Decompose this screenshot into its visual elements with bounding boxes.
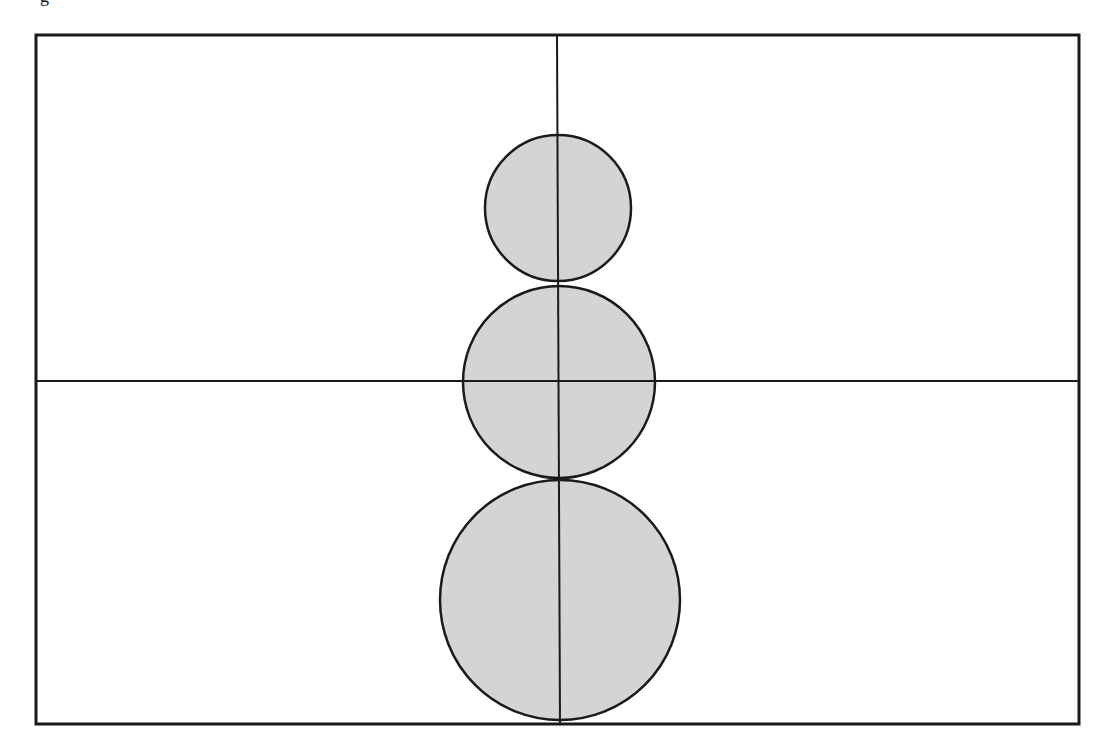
tangent-circles-diagram [0, 0, 1112, 756]
